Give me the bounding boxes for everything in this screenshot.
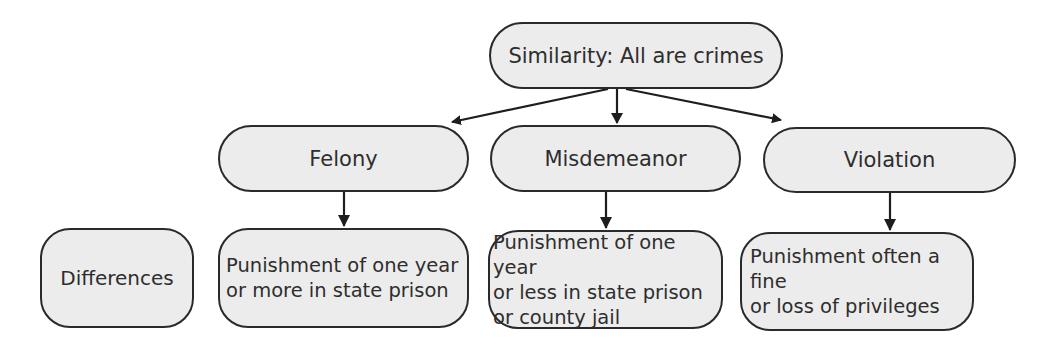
root-label: Similarity: All are crimes: [508, 44, 763, 68]
detail-text: Punishment of one year or more in state …: [226, 253, 458, 303]
detail-text: Punishment of one year or less in state …: [493, 230, 721, 330]
category-label: Felony: [309, 147, 377, 171]
category-node-violation: Violation: [763, 127, 1016, 193]
differences-label: Differences: [60, 266, 174, 291]
root-node-similarity: Similarity: All are crimes: [489, 22, 783, 89]
detail-node-felony: Punishment of one year or more in state …: [218, 228, 469, 328]
differences-label-node: Differences: [40, 228, 194, 328]
detail-text: Punishment often a fine or loss of privi…: [750, 244, 972, 319]
category-label: Misdemeanor: [544, 147, 686, 171]
detail-node-violation: Punishment often a fine or loss of privi…: [740, 232, 974, 331]
category-node-felony: Felony: [218, 125, 469, 192]
arrow-root-to-felony: [452, 89, 608, 122]
category-node-misdemeanor: Misdemeanor: [490, 125, 741, 192]
arrow-root-to-violation: [626, 89, 781, 120]
category-label: Violation: [844, 148, 936, 172]
detail-node-misdemeanor: Punishment of one year or less in state …: [488, 230, 723, 329]
